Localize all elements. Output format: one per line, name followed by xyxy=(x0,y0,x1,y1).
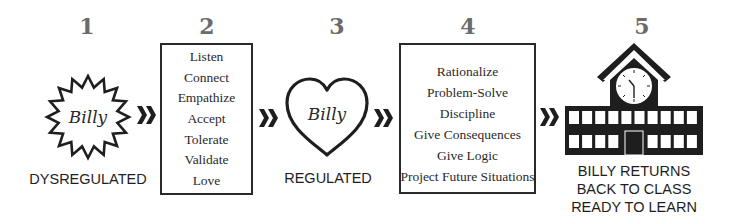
heart-icon: Billy xyxy=(283,75,371,159)
list-item: Listen xyxy=(190,49,224,65)
window xyxy=(635,111,645,124)
window xyxy=(674,111,684,124)
window xyxy=(608,111,618,124)
window xyxy=(687,111,697,124)
step-4-actions-list: Rationalize Problem-Solve Discipline Giv… xyxy=(399,43,536,194)
list-item: Rationalize xyxy=(437,64,498,80)
caption-dysregulated: DYSREGULATED xyxy=(20,170,156,189)
starburst-icon: Billy xyxy=(44,73,132,161)
window xyxy=(595,135,605,148)
window xyxy=(582,111,592,124)
caption-returns-to-class: BILLY RETURNS BACK TO CLASS READY TO LEA… xyxy=(565,162,703,216)
double-chevron-right-icon xyxy=(540,108,560,126)
school-building-icon xyxy=(565,43,703,155)
window xyxy=(674,135,684,148)
list-item: Connect xyxy=(184,70,229,86)
window xyxy=(595,111,605,124)
caption-line: READY TO LEARN xyxy=(565,198,703,216)
step-2-actions-list: Listen Connect Empathize Accept Tolerate… xyxy=(160,43,253,195)
list-item: Project Future Situations xyxy=(400,169,534,185)
list-item: Tolerate xyxy=(184,132,228,148)
list-item: Problem-Solve xyxy=(427,85,508,101)
caption-regulated: REGULATED xyxy=(276,169,380,188)
heart-name: Billy xyxy=(307,104,347,124)
list-item: Empathize xyxy=(178,90,236,106)
double-chevron-right-icon xyxy=(374,109,394,127)
window xyxy=(569,135,579,148)
list-item: Accept xyxy=(187,111,225,127)
list-item: Discipline xyxy=(440,106,496,122)
window xyxy=(608,135,618,148)
window xyxy=(661,135,671,148)
caption-line: BILLY RETURNS xyxy=(565,162,703,180)
step-number-2: 2 xyxy=(187,14,227,38)
step-number-3: 3 xyxy=(317,14,357,38)
starburst-name: Billy xyxy=(68,107,108,127)
list-item: Give Logic xyxy=(437,148,498,164)
window xyxy=(569,111,579,124)
step-number-1: 1 xyxy=(67,14,107,38)
caption-line: BACK TO CLASS xyxy=(565,180,703,198)
step-number-5: 5 xyxy=(622,14,662,38)
list-item: Love xyxy=(193,173,221,189)
window xyxy=(582,135,592,148)
double-chevron-right-icon xyxy=(137,106,157,124)
window xyxy=(661,111,671,124)
window xyxy=(648,111,658,124)
window xyxy=(648,135,658,148)
window xyxy=(687,135,697,148)
list-item: Validate xyxy=(184,152,228,168)
step-number-4: 4 xyxy=(448,14,488,38)
window xyxy=(621,111,631,124)
list-item: Give Consequences xyxy=(414,127,521,143)
double-chevron-right-icon xyxy=(259,109,279,127)
